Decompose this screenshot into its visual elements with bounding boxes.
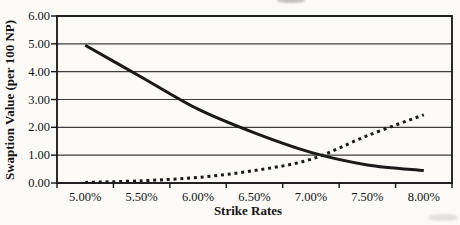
x-tick-label: 8.00% xyxy=(400,190,448,204)
x-axis-title: Strike Rates xyxy=(178,203,318,218)
y-tick-label: 0.00 xyxy=(14,176,50,190)
x-tick-label: 7.00% xyxy=(287,190,335,204)
x-tick-label: 5.50% xyxy=(118,190,166,204)
y-tick-label: 2.00 xyxy=(14,120,50,134)
swaption-value-chart: Swaption Value (per 100 NP) Strike Rates… xyxy=(0,0,460,225)
x-tick-label: 5.00% xyxy=(61,190,109,204)
x-tick-label: 6.00% xyxy=(174,190,222,204)
y-tick-label: 3.00 xyxy=(14,93,50,107)
y-tick-label: 5.00 xyxy=(14,37,50,51)
scan-artifact xyxy=(428,214,458,221)
y-tick-label: 1.00 xyxy=(14,148,50,162)
x-tick-label: 6.50% xyxy=(231,190,279,204)
series-solid-line xyxy=(85,45,424,170)
series-dotted-line xyxy=(85,115,424,183)
y-tick-label: 4.00 xyxy=(14,65,50,79)
x-tick-label: 7.50% xyxy=(343,190,391,204)
y-tick-label: 6.00 xyxy=(14,9,50,23)
